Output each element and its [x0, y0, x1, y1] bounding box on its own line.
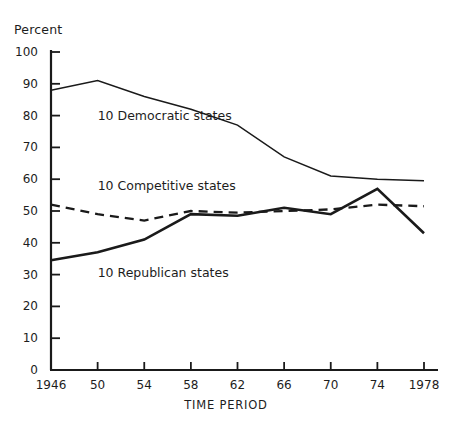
chart-container: Percent TIME PERIOD 01020304050607080901…: [0, 0, 452, 427]
data-series: [51, 81, 424, 261]
plot-area: [0, 0, 452, 427]
axes: [50, 50, 438, 370]
series-line-10-competitive-states: [51, 205, 424, 221]
series-line-10-republican-states: [51, 189, 424, 261]
series-line-10-democratic-states: [51, 81, 424, 181]
